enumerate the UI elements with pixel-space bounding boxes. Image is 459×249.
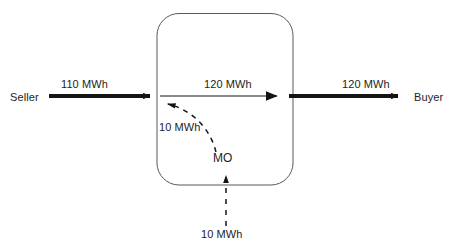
market-operator-label: MO [213, 152, 233, 164]
flow-label-mo-source: 10 MWh [201, 228, 243, 240]
flow-label-seller-to-system: 110 MWh [61, 78, 108, 90]
flow-label-system-internal: 120 MWh [204, 78, 252, 90]
buyer-label: Buyer [414, 91, 443, 103]
diagram-canvas [0, 0, 459, 249]
energy-flow-diagram: Seller Buyer 110 MWh 120 MWh 120 MWh 10 … [0, 0, 459, 249]
flow-label-mo-adjustment: 10 MWh [159, 121, 201, 133]
flow-label-system-to-buyer: 120 MWh [342, 78, 390, 90]
seller-label: Seller [10, 91, 39, 103]
